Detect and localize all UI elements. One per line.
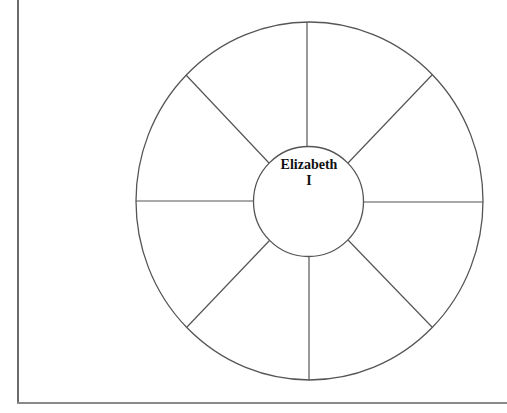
center-label-line2: I [254,173,364,189]
center-label-line1: Elizabeth [254,157,364,173]
spoke-bottom-left [187,240,270,327]
spoke-top-right [348,75,432,163]
spoke-bottom-right [348,240,432,327]
center-label: Elizabeth I [254,157,364,189]
spoke-wheel-diagram [0,0,507,413]
spoke-top-left [186,75,269,163]
